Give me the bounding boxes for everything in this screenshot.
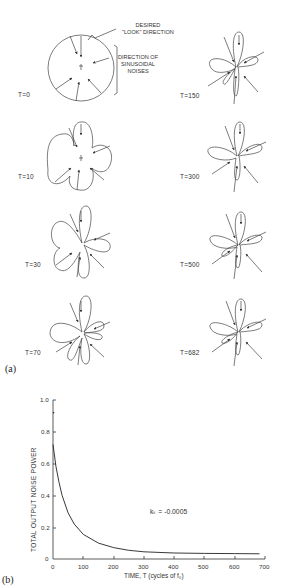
look-line1: DESIRED [122,22,174,29]
pattern-label-t10: T=10 [18,173,34,180]
x-tick-0: 0 [51,563,54,570]
y-axis-title: TOTAL OUTPUT NOISE POWER [30,447,37,552]
pattern-t0 [48,29,117,101]
x-tick-400: 400 [168,563,178,570]
pattern-label-t30: T=30 [25,261,41,268]
pattern-label-t300: T=300 [180,173,200,180]
y-tick-0.8: 0.8 [41,428,50,435]
ks-annotation: kₛ = -0.0005 [150,508,187,516]
pattern-t150 [208,32,264,104]
x-tick-700: 700 [259,563,269,570]
initial-point-marker [53,412,55,414]
pattern-label-t682: T=682 [180,349,200,356]
noise-direction-annotation: DIRECTION OF SINUSOIDAL NOISES [118,54,158,75]
x-tick-200: 200 [108,563,118,570]
y-tick-0.4: 0.4 [41,492,50,499]
y-tick-0.6: 0.6 [41,460,50,467]
y-tick-1.0: 1.0 [40,396,49,403]
x-tick-500: 500 [198,563,208,570]
x-axis-title: TIME, T (cycles of f₀) [124,572,184,579]
y-tick-0.2: 0.2 [41,524,50,531]
pattern-label-t0: T=0 [18,91,30,98]
noise-line2: SINUSOIDAL [118,61,158,68]
pattern-t500 [210,212,266,279]
pattern-label-t150: T=150 [180,92,200,99]
panel-a-label: (a) [5,363,16,374]
pattern-label-t500: T=500 [180,261,200,268]
pattern-t10 [47,122,111,190]
x-tick-100: 100 [78,563,88,570]
noise-line3: NOISES [118,68,158,75]
pattern-label-t70: T=70 [25,349,41,356]
y-tick-0: 0 [45,555,48,562]
panel-b-label: (b) [2,574,14,585]
x-tick-600: 600 [229,563,239,570]
pattern-t682 [210,299,266,366]
x-tick-300: 300 [138,563,148,570]
pattern-t300 [208,122,266,192]
noise-line1: DIRECTION OF [118,54,158,61]
look-line2: "LOOK" DIRECTION [122,29,174,36]
look-direction-annotation: DESIRED "LOOK" DIRECTION [122,22,174,36]
noise-power-curve [53,445,260,554]
pattern-t70 [50,296,110,365]
pattern-t30 [51,206,110,278]
